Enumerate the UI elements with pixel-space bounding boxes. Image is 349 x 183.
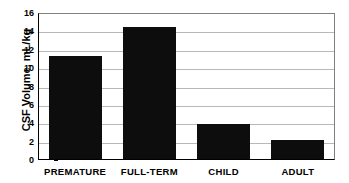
x-axis-tick-labels: PREMATUREFULL-TERMCHILDADULT [38, 162, 335, 180]
bar-slot [113, 14, 187, 159]
y-axis-tick-labels: 0246810121416 [20, 13, 34, 160]
y-tick-mark [54, 160, 58, 161]
bar-series [39, 14, 334, 159]
x-label-slot: CHILD [187, 162, 261, 180]
y-tick-label: 16 [24, 9, 34, 18]
y-tick-label: 12 [24, 45, 34, 54]
x-label-slot: PREMATURE [38, 162, 112, 180]
y-tick-label: 8 [29, 82, 34, 91]
x-tick-label: PREMATURE [44, 166, 106, 177]
csf-volume-bar-chart: CSF Volume, mL/kg 0246810121416 PREMATUR… [0, 0, 349, 183]
x-label-slot: FULL-TERM [112, 162, 186, 180]
bar-slot [260, 14, 334, 159]
y-tick-label: 10 [24, 64, 34, 73]
x-tick-label: CHILD [208, 166, 239, 177]
y-tick-label: 14 [24, 27, 34, 36]
x-tick-label: FULL-TERM [121, 166, 178, 177]
y-tick-label: 6 [29, 100, 34, 109]
bar-premature [49, 56, 102, 159]
bar-adult [271, 140, 324, 159]
x-tick-label: ADULT [281, 166, 314, 177]
y-tick-label: 2 [29, 137, 34, 146]
bar-slot [39, 14, 113, 159]
y-tick-label: 4 [29, 119, 34, 128]
plot-area [38, 13, 335, 160]
bar-child [197, 124, 250, 159]
bar-full-term [123, 27, 176, 159]
x-label-slot: ADULT [261, 162, 335, 180]
bar-slot [187, 14, 261, 159]
y-tick-label: 0 [29, 156, 34, 165]
